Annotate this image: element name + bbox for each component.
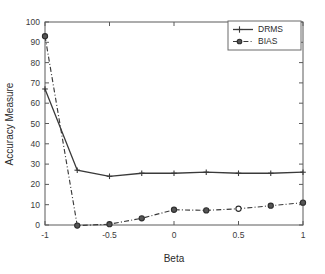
y-tick-label: 0 xyxy=(35,220,40,230)
x-tick-label: 0.5 xyxy=(233,230,245,240)
bias-data-point xyxy=(204,208,209,213)
y-tick-label: 20 xyxy=(31,179,41,189)
legend-label-drms: DRMS xyxy=(258,24,283,34)
x-tick-label: -1 xyxy=(41,230,49,240)
x-tick-label: 0 xyxy=(172,230,177,240)
y-tick-label: 90 xyxy=(31,37,41,47)
bias-data-point xyxy=(75,223,80,228)
chart-legend: DRMS BIAS xyxy=(228,21,301,50)
y-tick-label: 30 xyxy=(31,159,41,169)
y-tick-label: 80 xyxy=(31,58,41,68)
y-tick-label: 70 xyxy=(31,78,41,88)
legend-label-bias: BIAS xyxy=(258,36,278,46)
chart-figure: 0102030405060708090100 -1-0.500.51 Beta … xyxy=(0,0,325,274)
bias-data-point xyxy=(268,203,273,208)
bias-data-point xyxy=(42,34,47,39)
bias-data-point xyxy=(300,200,305,205)
plot-frame xyxy=(45,22,303,225)
y-tick-label: 40 xyxy=(31,139,41,149)
x-tick-label: -0.5 xyxy=(102,230,117,240)
y-tick-label: 10 xyxy=(31,200,41,210)
legend-marker-bias-icon xyxy=(237,39,242,44)
x-axis-title: Beta xyxy=(164,253,185,264)
bias-data-point xyxy=(107,222,112,227)
y-axis-title: Accuracy Measure xyxy=(4,82,15,165)
bias-data-point xyxy=(171,207,176,212)
y-tick-label: 60 xyxy=(31,98,41,108)
y-tick-label: 50 xyxy=(31,119,41,129)
y-tick-label: 100 xyxy=(26,17,40,27)
x-tick-label: 1 xyxy=(301,230,306,240)
line-chart: 0102030405060708090100 -1-0.500.51 Beta … xyxy=(0,0,325,274)
bias-data-point xyxy=(139,216,144,221)
bias-data-point xyxy=(236,206,241,211)
